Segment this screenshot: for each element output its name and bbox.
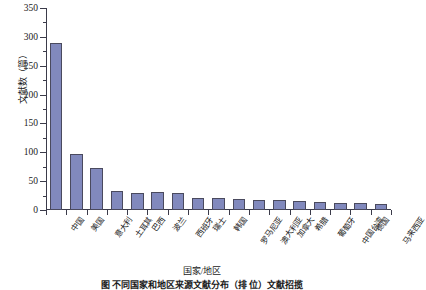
bar-item	[293, 8, 306, 210]
bar-item	[273, 8, 286, 210]
y-tick-label: 300	[24, 32, 38, 42]
bar-item	[172, 8, 185, 210]
bar	[253, 200, 266, 210]
figure-caption: 图 不同国家和地区来源文献分布（排 位）文献招揽	[0, 278, 404, 290]
x-category-label: 葡萄牙	[335, 214, 357, 239]
x-tick	[391, 210, 392, 215]
bar	[50, 43, 63, 210]
bar	[354, 203, 367, 210]
y-tick-label: 250	[24, 61, 38, 71]
bar	[131, 193, 144, 210]
bar-item	[70, 8, 83, 210]
bar	[192, 198, 205, 210]
bar	[70, 154, 83, 210]
bar	[172, 193, 185, 210]
x-category-label: 波兰	[169, 214, 187, 233]
plot-area: 050100150200250300350	[46, 8, 391, 210]
bar	[314, 202, 327, 210]
y-tick-label: 100	[24, 147, 38, 157]
x-category-label: 马来西亚	[399, 214, 426, 246]
bar-item	[192, 8, 205, 210]
x-category-label: 中国	[68, 214, 86, 233]
x-axis-category-labels: 中国美国意大利土耳其巴西波兰西班牙瑞士韩国罗马尼亚澳大利亚加拿大希腊葡萄牙中国台…	[46, 214, 391, 262]
bar	[111, 191, 124, 210]
bar-item	[212, 8, 225, 210]
bar	[293, 201, 306, 210]
bar-item	[253, 8, 266, 210]
x-category-label: 意大利	[112, 214, 134, 239]
bar-item	[233, 8, 246, 210]
bar	[375, 204, 388, 210]
y-tick-label: 350	[24, 3, 38, 13]
bar-series	[46, 8, 391, 210]
bar-item	[375, 8, 388, 210]
bar-item	[131, 8, 144, 210]
bar-item	[111, 8, 124, 210]
y-tick-label: 0	[33, 205, 38, 215]
bar-item	[314, 8, 327, 210]
y-tick-label: 200	[24, 90, 38, 100]
x-axis-title: 国家/地区	[0, 264, 404, 277]
bar	[90, 168, 103, 210]
x-category-label: 美国	[88, 214, 106, 233]
x-category-label: 韩国	[230, 214, 248, 233]
bar	[273, 200, 286, 210]
bar	[151, 192, 164, 210]
y-tick-label: 150	[24, 118, 38, 128]
bar-item	[151, 8, 164, 210]
bar-item	[50, 8, 63, 210]
bar	[233, 199, 246, 210]
x-category-label: 希腊	[311, 214, 329, 233]
x-category-label: 巴西	[149, 214, 167, 233]
bar	[334, 203, 347, 211]
x-category-label: 瑞士	[210, 214, 228, 233]
bar-item	[354, 8, 367, 210]
bar-item	[90, 8, 103, 210]
bar	[212, 198, 225, 210]
bar-item	[334, 8, 347, 210]
y-tick-label: 50	[29, 176, 39, 186]
